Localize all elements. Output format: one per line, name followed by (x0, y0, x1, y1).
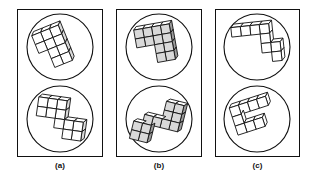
stimulus-c-lower (224, 86, 290, 152)
stimulus-a-lower (27, 86, 93, 152)
stimulus-drawing-layer (0, 0, 315, 179)
cube-cluster (129, 99, 187, 143)
stimulus-c-upper (224, 14, 290, 80)
cube-cluster (32, 21, 74, 68)
stimulus-a-upper (27, 14, 93, 80)
cube-cluster (134, 20, 178, 62)
stimulus-b-lower (126, 86, 192, 152)
cube-cluster (229, 92, 270, 135)
cube-cluster (36, 94, 87, 141)
stimulus-b-upper (126, 14, 192, 80)
cube-cluster (231, 20, 285, 61)
mental-rotation-figure: (a) (b) (c) (0, 0, 315, 179)
